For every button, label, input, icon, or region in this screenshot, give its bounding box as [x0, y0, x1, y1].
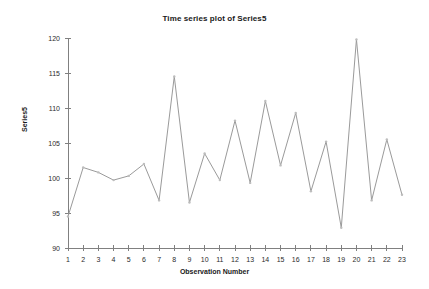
- x-tick-label: 17: [307, 256, 315, 263]
- x-tick-label: 19: [337, 256, 345, 263]
- plot-area: 9095100105110115120 12345678910111213141…: [0, 0, 429, 289]
- data-point: [370, 199, 372, 201]
- x-tick-label: 4: [112, 256, 116, 263]
- x-tick-label: 13: [246, 256, 254, 263]
- data-point: [219, 179, 221, 181]
- x-tick-label: 5: [127, 256, 131, 263]
- data-point: [203, 152, 205, 154]
- data-point: [112, 179, 114, 181]
- y-tick-label: 105: [48, 140, 60, 147]
- x-tick-label: 21: [368, 256, 376, 263]
- series-marker-group: [67, 38, 403, 229]
- x-tick-label: 12: [231, 256, 239, 263]
- x-tick-label: 2: [81, 256, 85, 263]
- y-tick-label: 110: [49, 105, 60, 112]
- data-point: [128, 175, 130, 177]
- data-point: [325, 140, 327, 142]
- x-tick-label: 9: [188, 256, 192, 263]
- x-tick-label: 16: [292, 256, 300, 263]
- chart-figure: Time series plot of Series5 Series5 9095…: [0, 0, 429, 289]
- data-point: [279, 164, 281, 166]
- x-tick-label: 15: [277, 256, 285, 263]
- x-tick-label: 10: [201, 256, 209, 263]
- data-point: [249, 182, 251, 184]
- data-point: [234, 119, 236, 121]
- x-tick-label: 3: [96, 256, 100, 263]
- y-tick-label: 90: [52, 245, 60, 252]
- data-point: [340, 227, 342, 229]
- x-tick-label: 22: [383, 256, 391, 263]
- x-tick-label: 18: [322, 256, 330, 263]
- data-point: [188, 201, 190, 203]
- x-tick-label: 11: [216, 256, 223, 263]
- y-tick-label: 100: [48, 175, 60, 182]
- data-point: [143, 163, 145, 165]
- data-point: [295, 112, 297, 114]
- data-point: [67, 215, 69, 217]
- data-point: [386, 138, 388, 140]
- data-point: [158, 199, 160, 201]
- data-point: [355, 38, 357, 40]
- x-tick-label: 20: [353, 256, 361, 263]
- y-tick-label: 120: [48, 35, 60, 42]
- x-tick-label: 7: [157, 256, 161, 263]
- x-tick-label: 14: [261, 256, 269, 263]
- x-tick-label: 6: [142, 256, 146, 263]
- data-point: [401, 194, 403, 196]
- data-point: [173, 75, 175, 77]
- x-axis-label: Observation Number: [0, 268, 429, 275]
- data-point: [97, 171, 99, 173]
- series-line-series5: [68, 39, 402, 227]
- data-point: [310, 190, 312, 192]
- y-tick-label: 95: [52, 210, 60, 217]
- data-point: [82, 166, 84, 168]
- x-tick-label: 23: [398, 256, 406, 263]
- x-tick-label: 1: [66, 256, 70, 263]
- x-tick-label: 8: [172, 256, 176, 263]
- y-tick-label: 115: [49, 70, 60, 77]
- data-point: [264, 100, 266, 102]
